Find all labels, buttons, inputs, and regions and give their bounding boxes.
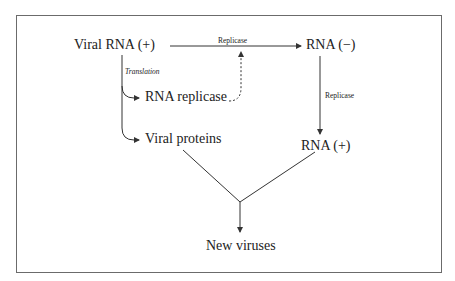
- arrow-translation-to-replicase: [122, 55, 139, 98]
- line-rna-plus-to-merge: [240, 152, 315, 202]
- node-rna-plus: RNA (+): [301, 138, 351, 154]
- label-replicase-top: Replicase: [218, 36, 247, 45]
- node-rna-replicase: RNA replicase: [145, 89, 227, 105]
- node-new-viruses: New viruses: [206, 238, 276, 254]
- node-viral-proteins: Viral proteins: [145, 131, 222, 147]
- line-proteins-to-merge: [183, 150, 240, 202]
- node-rna-minus: RNA (−): [306, 37, 356, 53]
- node-viral-rna-plus: Viral RNA (+): [74, 37, 155, 53]
- label-translation: Translation: [125, 67, 160, 76]
- label-replicase-right: Replicase: [325, 91, 354, 100]
- arrow-replicase-feedback: [229, 52, 241, 101]
